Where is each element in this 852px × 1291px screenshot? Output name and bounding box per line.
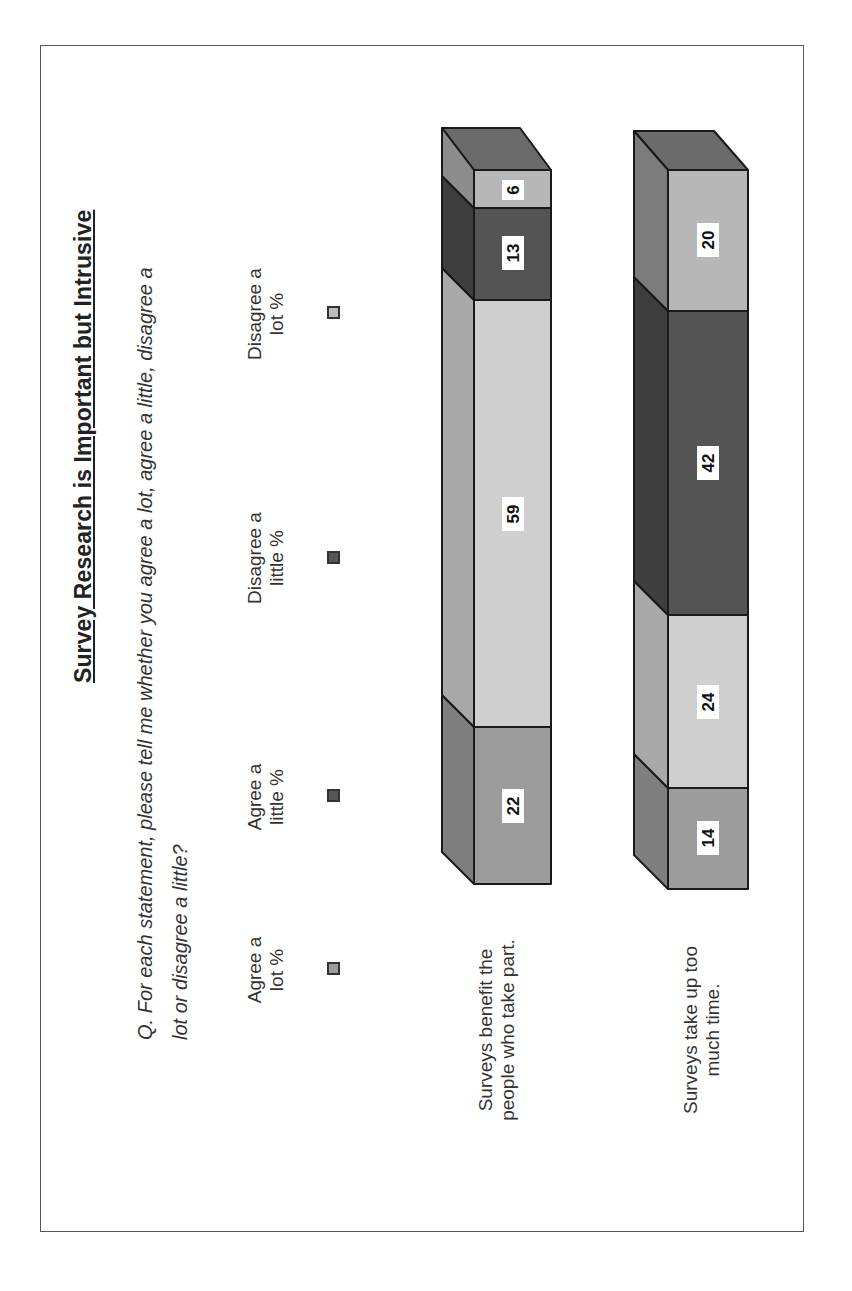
bar2-label-disagree-little: 42	[699, 454, 718, 473]
bar2-side-disagree-little	[634, 277, 668, 615]
category-label-benefit: Surveys benefit the people who take part…	[475, 900, 519, 1160]
bar2-side-agree-little	[634, 581, 668, 788]
category-label-line: people who take part.	[497, 900, 519, 1160]
bar1-side-agree-little	[442, 268, 474, 727]
bar2-label-disagree-lot: 20	[699, 231, 718, 250]
category-label-line: Surveys benefit the	[475, 900, 497, 1160]
bar2-label-agree-little: 24	[699, 692, 718, 711]
stacked-bar-chart: 22 59 13 6 14 24 42 20	[0, 0, 852, 1291]
bar1-label-disagree-lot: 6	[504, 185, 523, 194]
category-label-line: Surveys take up too	[680, 900, 702, 1160]
bar2-label-agree-lot: 14	[699, 828, 718, 847]
category-label-time: Surveys take up too much time.	[680, 900, 724, 1160]
category-label-line: much time.	[702, 900, 724, 1160]
bar1-label-agree-lot: 22	[504, 797, 523, 816]
bar1-label-agree-little: 59	[504, 505, 523, 524]
bar1-label-disagree-little: 13	[504, 244, 523, 263]
